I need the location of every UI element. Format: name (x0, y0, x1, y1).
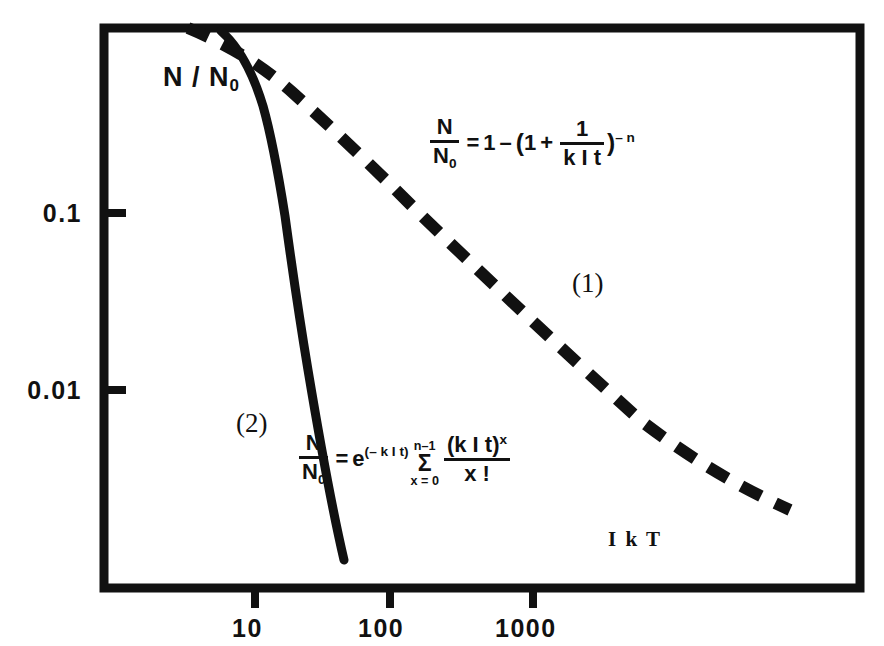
plot-canvas (0, 0, 884, 646)
eq1-lhs-fraction: N N0 (430, 116, 459, 170)
eq2-summation: n–1 Σ x = 0 (411, 440, 439, 487)
eq1-exponent: – n (615, 131, 635, 145)
eq2-num-body: k I t (454, 432, 492, 457)
eq1-inner-fraction: 1 k I t (560, 118, 604, 169)
x-tick-label-100: 100 (358, 614, 404, 643)
figure-container: 0.1 0.01 10 100 1000 I k T N / N0 (1) (2… (0, 0, 884, 646)
eq2-lhs-fraction: N N0 (299, 432, 328, 486)
plot-frame (104, 28, 860, 588)
eq1-frac-numerator: 1 (573, 118, 591, 140)
equation-curve-2: N N0 = e (– k I t) n–1 Σ x = 0 (k I t)x … (296, 432, 513, 486)
eq2-frac-numerator: (k I t)x (444, 433, 510, 456)
curve-2-tag: (2) (236, 408, 267, 439)
y-axis-label: N / N0 (163, 62, 240, 96)
eq2-exp-close-paren: ) (404, 444, 409, 459)
curve-1-tag: (1) (572, 268, 603, 299)
eq1-lhs-den-sub: 0 (449, 156, 457, 171)
equation-curve-1: N N0 = 1 – ( 1 + 1 k I t ) – n (427, 116, 635, 170)
x-tick-label-1000: 1000 (495, 614, 557, 643)
eq1-inner-one: 1 (524, 132, 536, 154)
eq2-lhs-den-sub: 0 (318, 472, 326, 487)
eq2-exp-body: – k I t (369, 444, 404, 459)
eq1-lhs-numerator: N (434, 116, 456, 138)
eq2-exponent-group: (– k I t) (365, 445, 409, 459)
eq2-term-fraction: (k I t)x x ! (444, 433, 510, 485)
x-axis-title: I k T (608, 527, 662, 552)
eq2-base-e: e (352, 448, 364, 470)
y-axis-label-text: N / N (163, 62, 230, 92)
eq2-sum-lower-limit: x = 0 (411, 475, 439, 488)
eq1-close-paren: ) (607, 131, 615, 156)
eq2-lhs-den-text: N (302, 459, 318, 484)
y-tick-label-0.01: 0.01 (2, 376, 82, 405)
eq1-open-paren: ( (516, 131, 524, 156)
eq2-equals: = (331, 448, 352, 470)
eq1-minus: – (496, 132, 516, 154)
eq1-lhs-denominator: N0 (430, 145, 459, 170)
eq2-lhs-denominator: N0 (299, 461, 328, 486)
eq1-plus: + (536, 132, 557, 154)
y-axis-label-subscript: 0 (230, 76, 240, 95)
eq1-lhs-den-text: N (433, 143, 449, 168)
eq1-one: 1 (483, 132, 495, 154)
eq1-close-group: ) – n (607, 131, 635, 156)
x-tick-label-10: 10 (232, 614, 263, 643)
eq2-frac-denominator: x ! (461, 463, 493, 485)
eq1-frac-denominator: k I t (560, 147, 604, 169)
y-tick-label-0.1: 0.1 (14, 199, 82, 228)
eq2-num-exponent: x (499, 432, 507, 447)
sigma-icon: Σ (418, 453, 432, 475)
eq2-lhs-numerator: N (303, 432, 325, 454)
eq1-equals: = (462, 132, 483, 154)
